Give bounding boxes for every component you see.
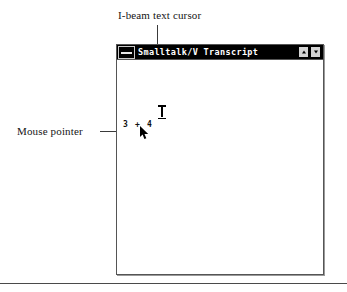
arrow-pointer-icon bbox=[140, 126, 150, 140]
window-control-buttons bbox=[298, 46, 321, 58]
i-beam-bottom-serif bbox=[158, 118, 166, 120]
system-menu-icon[interactable] bbox=[118, 46, 135, 59]
annotation-label-mouse-pointer: Mouse pointer bbox=[17, 125, 83, 138]
triangle-up-icon bbox=[302, 51, 306, 54]
transcript-window[interactable]: Smalltalk/V Transcript 3 + 4 bbox=[116, 44, 324, 275]
maximize-button[interactable] bbox=[310, 46, 321, 58]
window-title-bar[interactable]: Smalltalk/V Transcript bbox=[117, 45, 323, 60]
window-title: Smalltalk/V Transcript bbox=[138, 47, 298, 57]
i-beam-icon bbox=[157, 105, 166, 119]
transcript-client-area[interactable]: 3 + 4 bbox=[117, 60, 323, 273]
minimize-button[interactable] bbox=[298, 46, 309, 58]
annotation-label-ibeam: I-beam text cursor bbox=[118, 9, 201, 22]
page-bottom-rule bbox=[0, 283, 347, 284]
triangle-down-icon bbox=[314, 51, 318, 54]
i-beam-stem bbox=[161, 107, 163, 117]
